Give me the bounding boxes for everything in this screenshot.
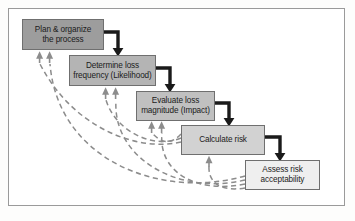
process-node-plan-text: Plan & organizethe process (25, 25, 101, 45)
process-node-plan-line1: Plan & organize (25, 25, 101, 35)
process-node-assess[interactable]: Assess riskacceptability (245, 160, 320, 190)
process-node-assess-line2: acceptability (248, 175, 317, 185)
process-node-frequency-line1: Determine loss (72, 61, 153, 71)
process-node-assess-line1: Assess risk (248, 165, 317, 175)
process-node-assess-text: Assess riskacceptability (248, 165, 317, 185)
process-node-frequency[interactable]: Determine lossfrequency (Likelihood) (69, 55, 156, 86)
diagram-figure: Plan & organizethe process Determine los… (0, 0, 355, 221)
process-node-calculate[interactable]: Calculate risk (181, 125, 265, 155)
process-node-calculate-line1: Calculate risk (184, 135, 262, 145)
process-node-calculate-text: Calculate risk (184, 135, 262, 145)
flow-arrow-magnitude-to-calculate (215, 103, 234, 127)
flow-arrow-plan-to-frequency (104, 32, 123, 57)
process-node-frequency-line2: frequency (Likelihood) (72, 71, 153, 81)
process-node-frequency-text: Determine lossfrequency (Likelihood) (72, 61, 153, 81)
process-node-plan-line2: the process (25, 35, 101, 45)
process-node-plan[interactable]: Plan & organizethe process (22, 19, 104, 50)
process-node-magnitude-text: Evaluate lossmagnitude (Impact) (139, 96, 212, 116)
process-node-magnitude[interactable]: Evaluate lossmagnitude (Impact) (136, 91, 215, 121)
process-node-magnitude-line2: magnitude (Impact) (139, 106, 212, 116)
process-node-magnitude-line1: Evaluate loss (139, 96, 212, 106)
flow-arrow-calculate-to-assess (265, 137, 285, 162)
flow-arrow-frequency-to-magnitude (156, 68, 175, 93)
